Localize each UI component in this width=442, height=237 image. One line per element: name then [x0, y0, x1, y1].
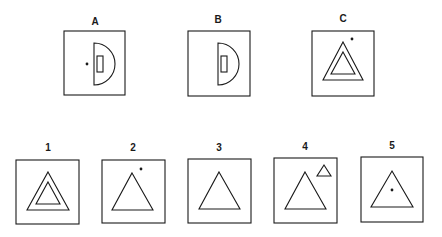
option-2 — [102, 160, 165, 223]
inner-rectangle-shape — [97, 56, 103, 72]
panel-b — [188, 31, 250, 96]
triangle-shape — [112, 173, 153, 210]
panel-c-frame — [312, 31, 374, 96]
option-2-frame — [102, 160, 165, 223]
inner-rectangle-shape — [221, 56, 227, 72]
option-3-frame — [188, 159, 251, 223]
panel-a — [64, 31, 125, 95]
inner-triangle-shape — [331, 52, 355, 74]
option-4-frame — [274, 158, 337, 223]
inner-triangle-shape — [36, 182, 60, 204]
triangle-shape — [199, 172, 240, 209]
option-3 — [188, 159, 251, 223]
option-1-frame — [16, 160, 79, 224]
option-1 — [16, 160, 79, 224]
small-triangle-shape — [317, 165, 331, 176]
dot-shape — [391, 189, 394, 192]
large-triangle-shape — [285, 172, 326, 209]
dot-shape — [351, 38, 354, 41]
option-4 — [274, 158, 337, 223]
dot-shape — [86, 63, 89, 66]
panel-c — [312, 31, 374, 96]
dot-shape — [140, 168, 143, 171]
option-5 — [361, 157, 423, 222]
analogy-figure — [0, 0, 442, 237]
panel-b-frame — [188, 31, 250, 96]
